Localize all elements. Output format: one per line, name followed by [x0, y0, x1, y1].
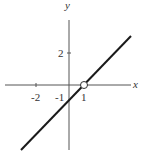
- x-tick-label-1: 1: [81, 91, 87, 103]
- open-circle-hole: [81, 82, 88, 89]
- x-tick-label-neg2: -2: [31, 91, 40, 103]
- y-axis-label: y: [64, 0, 70, 11]
- graph: x y -2 1 2 -1: [0, 0, 157, 160]
- y-tick-label-2: 2: [58, 47, 64, 59]
- x-axis-label: x: [132, 78, 138, 90]
- y-tick-label-neg1: -1: [55, 91, 64, 103]
